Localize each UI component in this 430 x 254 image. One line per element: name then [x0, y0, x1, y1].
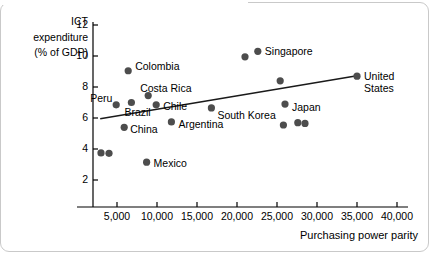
x-axis-tick-label: 20,000 — [215, 210, 259, 222]
data-point — [113, 101, 120, 108]
data-point — [301, 120, 308, 127]
data-point-label-line: United — [364, 70, 394, 82]
data-point — [121, 124, 128, 131]
y-axis-tick-label: 6 — [70, 111, 88, 123]
y-axis-tick-label: 8 — [70, 80, 88, 92]
data-point — [125, 67, 132, 74]
x-axis-tick-label: 25,000 — [255, 210, 299, 222]
data-point-label: Japan — [292, 101, 321, 113]
data-point-label: Singapore — [265, 45, 313, 57]
data-point — [105, 150, 112, 157]
data-point — [208, 104, 215, 111]
data-point — [353, 73, 360, 80]
data-point — [168, 118, 175, 125]
x-axis-tick-label: 30,000 — [295, 210, 339, 222]
x-axis-tick-label: 35,000 — [335, 210, 379, 222]
data-point — [153, 101, 160, 108]
data-point — [254, 48, 261, 55]
data-point-label-line: States — [364, 82, 394, 94]
y-axis-tick-label: 2 — [70, 173, 88, 185]
data-point — [241, 53, 248, 60]
data-point — [280, 121, 287, 128]
data-point-label: UnitedStates — [364, 70, 394, 94]
x-axis-tick-label: 40,000 — [375, 210, 419, 222]
data-point-label: Peru — [90, 92, 112, 104]
data-point — [281, 100, 288, 107]
data-point — [97, 149, 104, 156]
x-axis-tick-label: 10,000 — [135, 210, 179, 222]
data-point-label: Colombia — [135, 60, 179, 72]
data-point-label: China — [130, 123, 157, 135]
x-axis-tick-label: 5,000 — [95, 210, 139, 222]
data-point — [277, 77, 284, 84]
data-point — [143, 159, 150, 166]
data-point-label: Brazil — [124, 106, 150, 118]
data-point-label: Costa Rica — [140, 82, 191, 94]
y-axis-tick-label: 10 — [70, 49, 88, 61]
y-axis-tick-label: 12 — [70, 18, 88, 30]
x-axis-ticks — [117, 202, 397, 207]
data-point-label: Chile — [163, 100, 187, 112]
x-axis-title: Purchasing power parity — [300, 229, 418, 241]
data-point-label: South Korea — [217, 109, 275, 121]
y-axis-tick-label: 4 — [70, 142, 88, 154]
x-axis-tick-label: 15,000 — [175, 210, 219, 222]
ict-expenditure-scatter-figure: ICT expenditure (% of GDP) 24681012 5,00… — [0, 0, 430, 254]
data-point — [294, 119, 301, 126]
data-point-label: Mexico — [154, 157, 187, 169]
